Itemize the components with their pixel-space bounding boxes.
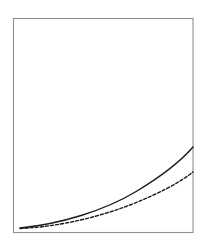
figure-root: Line chart with a thin rectangular borde… [0, 0, 208, 251]
plot-frame-border [14, 19, 194, 233]
line-chart [0, 0, 208, 251]
